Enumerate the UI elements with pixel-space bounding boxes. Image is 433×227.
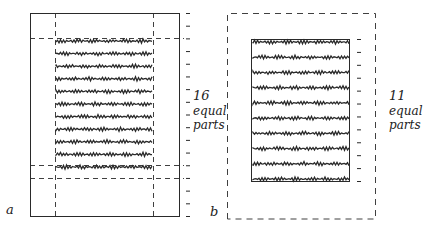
text-line	[56, 152, 152, 156]
text-line	[56, 115, 152, 119]
text-line	[253, 177, 349, 181]
text-line	[56, 52, 152, 56]
panel-a-divisions-word2: parts	[193, 118, 225, 132]
text-line	[253, 71, 349, 75]
text-line	[56, 90, 152, 94]
panel-a: 16 equal parts a	[6, 13, 227, 217]
text-line	[56, 64, 152, 68]
panel-a-divisions-num: 16	[193, 88, 210, 103]
panel-a-label: a	[6, 202, 14, 217]
text-line	[253, 40, 349, 44]
page-a-outline	[31, 14, 180, 217]
text-line	[56, 127, 152, 131]
text-line	[56, 102, 152, 106]
panel-b-ticks	[357, 40, 361, 182]
text-line	[253, 86, 349, 90]
panel-b-text-block	[253, 40, 349, 181]
text-line	[253, 147, 349, 151]
text-line	[253, 101, 349, 105]
text-line	[56, 140, 152, 144]
panel-a-ticks	[186, 14, 190, 217]
panel-b-divisions-word1: equal	[389, 104, 423, 118]
panel-a-divisions-word1: equal	[193, 104, 227, 118]
page-b-outline-dashed	[228, 14, 376, 220]
panel-b: 11 equal parts b	[210, 14, 423, 220]
panel-b-label: b	[210, 204, 218, 219]
page-b-text-area	[252, 40, 350, 182]
text-line	[253, 116, 349, 120]
page-layout-diagram: 16 equal parts a 11 equal parts b	[0, 0, 433, 227]
text-line	[253, 55, 349, 59]
text-line	[253, 162, 349, 166]
panel-a-text-block	[56, 39, 152, 169]
panel-b-divisions-num: 11	[389, 88, 406, 103]
panel-a-guides	[30, 13, 184, 217]
panel-b-divisions-word2: parts	[389, 118, 421, 132]
text-line	[56, 39, 152, 43]
text-line	[253, 132, 349, 136]
text-line	[56, 77, 152, 81]
